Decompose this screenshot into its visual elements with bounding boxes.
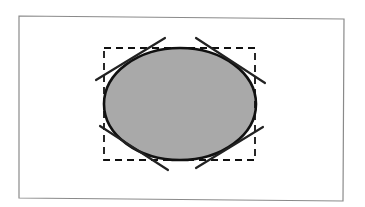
diagram-canvas [0,0,365,207]
ellipse-tangent-diagram [0,0,365,207]
